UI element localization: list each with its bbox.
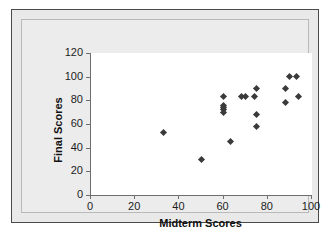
- y-tick-label: 20: [71, 165, 83, 176]
- x-tick-label: 0: [70, 201, 110, 212]
- scatter-point: [227, 138, 234, 145]
- figure-root: 020406080100120020406080100 Midterm Scor…: [0, 0, 330, 233]
- y-tick-label: 100: [65, 71, 83, 82]
- x-tick-label: 100: [291, 201, 330, 212]
- x-tick-label: 40: [158, 201, 198, 212]
- scatter-point: [251, 93, 258, 100]
- scatter-point: [242, 93, 249, 100]
- scatter-point: [253, 123, 260, 130]
- scatter-point: [295, 93, 302, 100]
- y-tick-label: 60: [71, 118, 83, 129]
- y-tick-label: 80: [71, 94, 83, 105]
- scatter-point: [160, 129, 167, 136]
- y-tick-label: 0: [77, 189, 83, 200]
- scatter-point: [282, 99, 289, 106]
- scatter-point: [253, 85, 260, 92]
- scatter-point: [198, 156, 205, 163]
- scatter-point: [220, 93, 227, 100]
- scatter-point: [253, 111, 260, 118]
- x-axis-title: Midterm Scores: [90, 217, 311, 229]
- scatter-point: [282, 85, 289, 92]
- plot-area: [90, 53, 312, 196]
- x-tick-label: 60: [203, 201, 243, 212]
- y-tick-label: 40: [71, 142, 83, 153]
- y-tick-label: 120: [65, 47, 83, 58]
- x-tick-label: 20: [114, 201, 154, 212]
- x-tick-label: 80: [247, 201, 287, 212]
- inner-border: 020406080100120020406080100 Midterm Scor…: [21, 19, 309, 213]
- y-axis-title: Final Scores: [52, 70, 64, 190]
- scatter-point: [293, 73, 300, 80]
